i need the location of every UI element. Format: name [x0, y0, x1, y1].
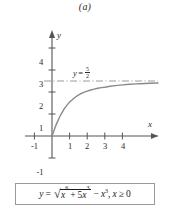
- y-axis-label: y: [57, 31, 61, 40]
- x-tick-label-3: 3: [98, 142, 112, 151]
- panel-caption: (a): [0, 1, 170, 13]
- radicand-base-2: x: [82, 190, 86, 200]
- radicand: x6+5x3: [60, 189, 90, 200]
- equation-equals: =: [46, 189, 51, 199]
- equation-lhs: y: [39, 189, 43, 199]
- asymptote-label-fraction: 5 2: [85, 66, 90, 80]
- equation-text: y = √ x6+5x3 − x3, x ≥ 0: [39, 188, 130, 200]
- fraction-denominator: 2: [85, 73, 90, 80]
- square-root-icon: √ x6+5x3: [54, 188, 91, 200]
- radicand-exponent-2: 3: [87, 185, 90, 191]
- domain-variable: x: [112, 189, 116, 199]
- asymptote-label-variable: y: [73, 69, 77, 78]
- x-tick-label-neg1: -1: [26, 142, 43, 151]
- x-axis-label: x: [148, 120, 152, 129]
- x-axis: [25, 133, 158, 139]
- radicand-base-1: x: [61, 190, 65, 200]
- y-axis: [49, 30, 55, 158]
- equation-minus: −: [94, 189, 99, 199]
- radical-surd-glyph: √: [54, 189, 61, 201]
- y-tick-label-4: 4: [34, 58, 48, 67]
- y-tick-label-2: 2: [34, 102, 48, 111]
- domain-value: 0: [126, 189, 131, 199]
- asymptote-label-equals: =: [78, 69, 83, 78]
- equation-box: y = √ x6+5x3 − x3, x ≥ 0: [15, 183, 155, 205]
- function-curve: [52, 83, 158, 136]
- x-tick-label-2: 2: [80, 142, 94, 151]
- radicand-exponent-1: 6: [65, 185, 68, 191]
- x-tick-label-4: 4: [116, 142, 130, 151]
- domain-relation: ≥: [119, 189, 124, 199]
- x-tick-label-1: 1: [63, 142, 77, 151]
- y-tick-label-neg1: -1: [32, 168, 48, 177]
- figure-container: (a): [0, 0, 170, 208]
- radicand-plus: +: [70, 190, 75, 200]
- y-tick-label-1: 1: [34, 124, 48, 133]
- plot-area: 4 3 2 1 -1 -1 1 2 3 4 y x y = 5 2: [0, 14, 170, 172]
- asymptote-label: y = 5 2: [73, 66, 90, 80]
- equation-comma: ,: [108, 189, 110, 199]
- y-tick-label-3: 3: [34, 80, 48, 89]
